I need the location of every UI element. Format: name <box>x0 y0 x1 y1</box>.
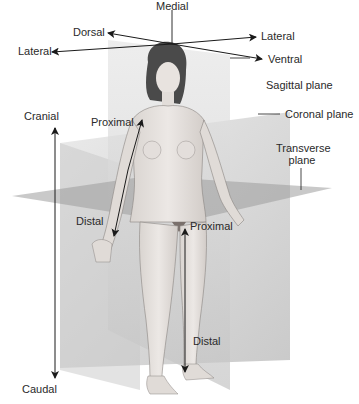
lateral-right-arrow <box>172 37 256 44</box>
anatomy-diagram <box>0 0 359 404</box>
label-dorsal: Dorsal <box>73 27 105 38</box>
label-lateral-right: Lateral <box>261 31 295 42</box>
label-transverse-line2: plane <box>276 155 328 166</box>
label-coronal-plane: Coronal plane <box>285 109 354 120</box>
label-medial: Medial <box>156 1 188 12</box>
label-sagittal-plane: Sagittal plane <box>266 80 333 91</box>
label-distal-leg: Distal <box>193 336 221 347</box>
label-ventral: Ventral <box>268 54 302 65</box>
label-transverse-plane: Transverse plane <box>276 143 328 166</box>
label-distal-arm: Distal <box>76 216 104 227</box>
label-lateral-left: Lateral <box>18 46 52 57</box>
label-cranial: Cranial <box>24 111 59 122</box>
label-transverse-line1: Transverse <box>276 143 328 154</box>
label-proximal-leg: Proximal <box>190 221 233 232</box>
label-caudal: Caudal <box>22 384 57 395</box>
label-proximal-arm: Proximal <box>91 117 134 128</box>
